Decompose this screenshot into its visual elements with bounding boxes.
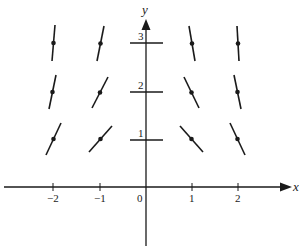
slope-segment — [89, 126, 112, 152]
y-tick-3-label: 3 — [138, 30, 144, 42]
slope-segment — [189, 26, 195, 61]
svg-text:−2: −2 — [47, 192, 59, 204]
grid-point-dot — [235, 90, 240, 95]
slope-segment — [236, 26, 241, 61]
slope-segment — [92, 77, 108, 108]
slope-field-plot: x y 0 −2 −1 1 2 1 2 3 — [0, 0, 299, 250]
slope-segment — [49, 75, 56, 109]
x-axis-arrow-icon — [280, 183, 292, 192]
grid-point-dot — [189, 90, 194, 95]
slope-segment — [46, 123, 61, 155]
grid-point-dot — [98, 90, 103, 95]
slope-segment — [51, 25, 56, 61]
grid-point-dot — [236, 41, 241, 46]
slope-segment — [180, 126, 203, 152]
origin-label: 0 — [137, 192, 143, 204]
x-tick-neg2: −2 — [47, 183, 59, 204]
grid-point-dot — [51, 137, 56, 142]
slope-field-diagram: x y 0 −2 −1 1 2 1 2 3 — [0, 0, 299, 250]
slope-segment — [97, 26, 104, 61]
slope-segment — [234, 75, 241, 109]
slope-segment — [184, 77, 199, 108]
svg-text:2: 2 — [235, 192, 241, 204]
grid-point-dot — [235, 137, 240, 142]
slope-segment — [230, 123, 245, 155]
y-axis-arrow-icon — [142, 19, 151, 30]
grid-point-dot — [190, 41, 195, 46]
y-axis-label: y — [140, 2, 148, 17]
grid-point-dot — [189, 137, 194, 142]
x-axis-label: x — [292, 179, 299, 194]
grid-point-dot — [50, 90, 55, 95]
x-tick-1: 1 — [189, 183, 195, 204]
svg-text:1: 1 — [189, 192, 195, 204]
y-tick-1-label: 1 — [138, 127, 144, 139]
grid-point-dot — [51, 41, 56, 46]
svg-text:−1: −1 — [94, 192, 106, 204]
grid-point-dot — [98, 137, 103, 142]
x-tick-2: 2 — [235, 183, 241, 204]
grid-point-dot — [98, 41, 103, 46]
y-tick-2-label: 2 — [138, 79, 144, 91]
x-tick-neg1: −1 — [94, 183, 106, 204]
